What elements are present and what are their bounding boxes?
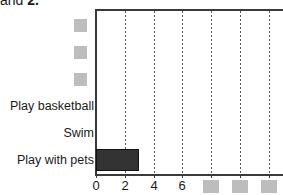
x-tick-label-4: 4 [142, 178, 166, 193]
cropped-heading: and 2. [0, 0, 92, 10]
redacted-category-label-0 [74, 19, 87, 32]
redacted-x-tick-label-8 [203, 180, 219, 193]
x-tick-label-0: 0 [84, 178, 108, 193]
x-tick-8 [211, 174, 212, 178]
category-label-play-with-pets: Play with pets [17, 153, 94, 167]
axis-top-line [95, 9, 283, 11]
x-tick-10 [240, 174, 241, 178]
heading-text: and 2. [0, 0, 39, 8]
x-tick-12 [269, 174, 270, 178]
redacted-x-tick-label-12 [261, 180, 277, 193]
gridline-8 [211, 11, 212, 174]
x-tick-label-2: 2 [113, 178, 137, 193]
redacted-category-label-2 [74, 73, 87, 86]
category-label-swim: Swim [63, 126, 94, 140]
x-tick-label-6: 6 [170, 178, 194, 193]
category-label-play-basketball: Play basketball [10, 99, 94, 113]
chart-figure: and 2. 0246 Play basketballSwimPlay with… [0, 0, 283, 195]
gridline-6 [182, 11, 183, 174]
heading-prefix: and [0, 0, 27, 8]
gridline-4 [154, 11, 155, 174]
redacted-category-label-1 [74, 46, 87, 59]
heading-number: 2. [27, 0, 39, 8]
bar-5 [96, 149, 139, 171]
axis-bottom-line [95, 174, 283, 176]
redacted-x-tick-label-10 [232, 180, 248, 193]
gridline-10 [240, 11, 241, 174]
gridline-12 [269, 11, 270, 174]
